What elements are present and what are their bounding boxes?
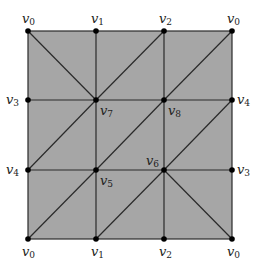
vertex-dot-mid-8	[161, 97, 167, 103]
vertex-label-mid-8: v8	[168, 104, 181, 119]
vertex-dot-bottom-1	[93, 236, 99, 242]
vertex-dot-right-3	[229, 167, 235, 173]
vertex-dot-left-3	[25, 97, 31, 103]
vertex-dot-bottom-0-right	[229, 236, 235, 242]
vertex-label-bottom-0-left: v0	[22, 245, 35, 260]
vertex-label-bottom-1: v1	[91, 245, 104, 260]
vertex-dot-top-0-left	[25, 28, 31, 34]
vertex-dot-bottom-2	[161, 236, 167, 242]
vertex-dot-top-2	[161, 28, 167, 34]
vertex-dot-mid-5	[93, 167, 99, 173]
vertex-dot-top-1	[93, 28, 99, 34]
vertex-dot-mid-7	[93, 97, 99, 103]
vertex-label-bottom-2: v2	[159, 245, 172, 260]
vertex-label-mid-5: v5	[100, 174, 113, 189]
vertex-dot-right-4	[229, 97, 235, 103]
vertex-dot-top-0-right	[229, 28, 235, 34]
vertex-label-bottom-0-right: v0	[227, 245, 240, 260]
vertex-label-mid-6: v6	[146, 154, 159, 169]
triangulation-diagram	[0, 0, 260, 271]
vertex-dot-bottom-0-left	[25, 236, 31, 242]
vertex-label-left-4: v4	[6, 163, 19, 178]
vertex-label-right-4: v4	[237, 93, 250, 108]
vertex-dot-left-4	[25, 167, 31, 173]
vertex-label-right-3: v3	[237, 163, 250, 178]
vertex-label-left-3: v3	[6, 93, 19, 108]
vertex-label-top-2: v2	[159, 12, 172, 27]
vertex-label-top-0-left: v0	[22, 12, 35, 27]
vertex-label-mid-7: v7	[100, 104, 113, 119]
vertex-label-top-0-right: v0	[227, 12, 240, 27]
vertex-label-top-1: v1	[91, 12, 104, 27]
vertex-dot-mid-6	[161, 167, 167, 173]
